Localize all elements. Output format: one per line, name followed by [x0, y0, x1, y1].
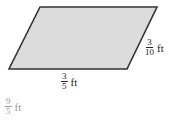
parallelogram — [0, 0, 169, 121]
base-length-label: 3 5 ft — [61, 72, 77, 91]
side-length-label: 3 10 ft — [145, 38, 164, 57]
answer-label: 9 5 ft — [5, 97, 21, 116]
